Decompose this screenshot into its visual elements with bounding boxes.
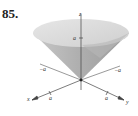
x-axis-label: x [26, 96, 30, 102]
y-tick-neg-a: −a [114, 67, 121, 73]
y-tick-a: a [105, 95, 108, 101]
x-tick-neg-a: −a [39, 66, 46, 72]
cone-diagram: z a −a −a x a a y [0, 0, 138, 116]
axes-front [32, 80, 124, 100]
z-tick-a: a [73, 35, 76, 41]
x-tick-a: a [49, 95, 52, 101]
origin-point [80, 79, 83, 82]
y-axis-label: y [125, 99, 129, 105]
z-axis-label: z [78, 11, 82, 17]
